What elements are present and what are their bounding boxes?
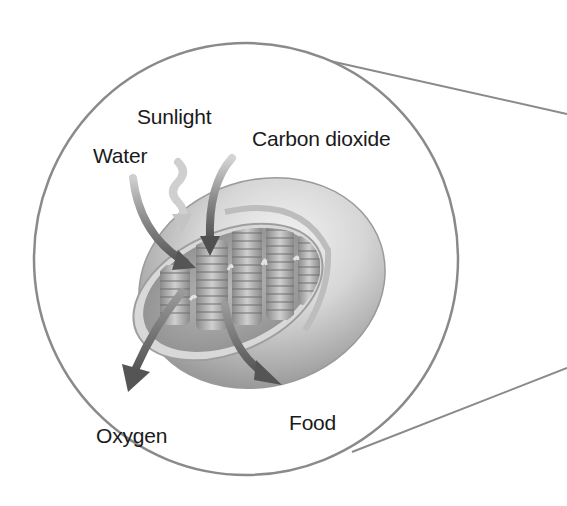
label-food: Food [289, 412, 336, 433]
label-oxygen: Oxygen [96, 425, 167, 446]
granum [266, 222, 294, 320]
photosynthesis-diagram: Sunlight Water Carbon dioxide Oxygen Foo… [0, 0, 567, 506]
label-carbon-dioxide: Carbon dioxide [252, 128, 390, 149]
label-water: Water [93, 145, 147, 166]
granum [232, 225, 262, 325]
diagram-graphic [0, 0, 567, 506]
label-sunlight: Sunlight [137, 106, 211, 127]
